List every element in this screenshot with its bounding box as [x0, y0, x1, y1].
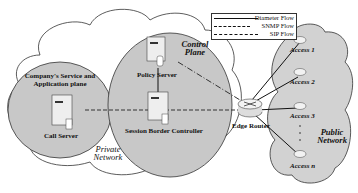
- access-n-label: Access n: [290, 162, 315, 170]
- legend: Diameter Flow SNMP Flow SIP Flow: [211, 13, 297, 40]
- access-2-label: Access 2: [290, 78, 315, 86]
- policy-server-label: Policy Server: [137, 71, 177, 79]
- legend-diameter: Diameter Flow: [214, 14, 294, 22]
- call-server-icon: [52, 95, 72, 129]
- legend-snmp: SNMP Flow: [214, 22, 294, 30]
- legend-sip: SIP Flow: [214, 30, 294, 38]
- edge-router-icon: [238, 99, 262, 117]
- call-server-label: Call Server: [44, 132, 78, 140]
- session-border-controller-icon: [148, 92, 168, 124]
- sbc-label: Session Border Controller: [125, 127, 203, 135]
- access-3-label: Access 3: [290, 112, 315, 120]
- private-network-label: Private Network: [88, 145, 128, 161]
- access-1-label: Access 1: [290, 46, 315, 54]
- company-plane-label: Company's Service and Application plane: [18, 72, 102, 88]
- public-network-label: Public Network: [312, 128, 352, 144]
- control-plane-label: Control Plane: [180, 40, 210, 56]
- edge-router-label: Edge Router: [232, 122, 270, 130]
